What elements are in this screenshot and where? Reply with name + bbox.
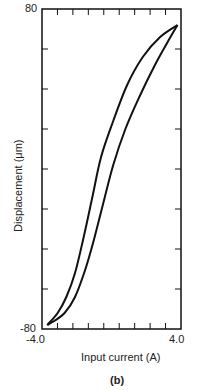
y-max-label: 80	[25, 2, 37, 14]
x-max-label: 4.0	[169, 333, 184, 345]
ascending-branch-curve	[47, 25, 177, 325]
x-axis-title: Input current (A)	[81, 351, 160, 363]
y-axis-title: Displacement (μm)	[12, 139, 24, 232]
panel-label: (b)	[110, 374, 124, 386]
x-min-label: -4.0	[26, 333, 45, 345]
descending-branch-curve	[47, 25, 177, 325]
